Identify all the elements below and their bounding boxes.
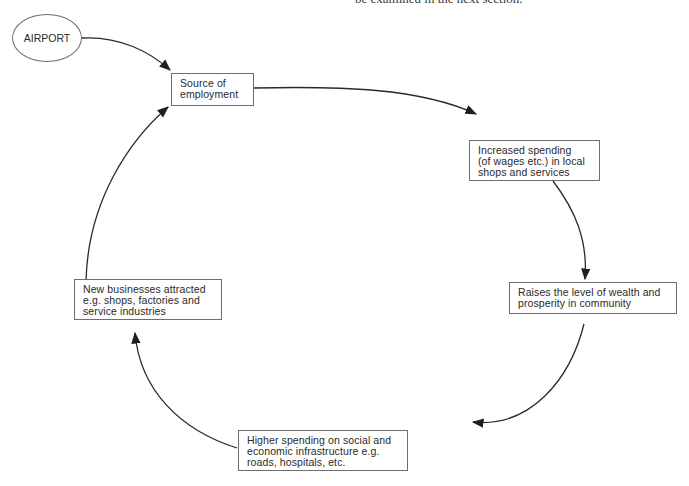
airport-node: AIRPORT [12, 14, 82, 62]
node-text: roads, hospitals, etc. [247, 457, 401, 468]
node-source-of-employment: Source of employment [171, 73, 254, 106]
node-new-businesses: New businesses attracted e.g. shops, fac… [74, 279, 222, 320]
cycle-arrows [0, 0, 689, 486]
node-increased-spending: Increased spending (of wages etc.) in lo… [469, 140, 600, 181]
airport-label: AIRPORT [24, 32, 70, 44]
node-text: prosperity in community [518, 298, 670, 309]
node-higher-spending-infrastructure: Higher spending on social and economic i… [238, 430, 408, 471]
arrow-businesses-to-source [86, 107, 168, 281]
arrow-wealth-to-infrastructure [473, 324, 584, 423]
node-raises-wealth: Raises the level of wealth and prosperit… [509, 282, 677, 314]
arrow-source-to-spending [254, 87, 476, 114]
node-text: service industries [83, 306, 215, 317]
arrow-airport-to-source [82, 38, 170, 70]
arrow-spending-to-wealth [553, 181, 585, 279]
node-text: employment [180, 89, 247, 100]
node-text: shops and services [478, 167, 593, 178]
arrow-infrastructure-to-businesses [135, 333, 237, 448]
